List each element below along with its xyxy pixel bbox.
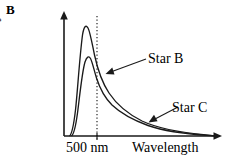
figure-panel-b: B Intensity 500 nm <box>0 0 233 164</box>
curve-star-c <box>72 57 216 136</box>
y-axis-label: Intensity <box>0 0 1 84</box>
curve-star-b <box>70 26 216 136</box>
star-b-arrowhead <box>106 67 115 74</box>
x-axis-label: Wavelength <box>132 141 199 155</box>
x-axis <box>64 132 222 140</box>
y-axis-arrowhead <box>60 11 68 20</box>
star-b-callout-arrow <box>106 59 147 75</box>
series-label-star-c: Star C <box>172 101 207 115</box>
y-axis <box>60 11 68 136</box>
x-axis-tick-label-500nm: 500 nm <box>66 141 108 155</box>
series-label-star-b: Star B <box>148 52 183 66</box>
star-b-leader-line <box>112 59 146 72</box>
